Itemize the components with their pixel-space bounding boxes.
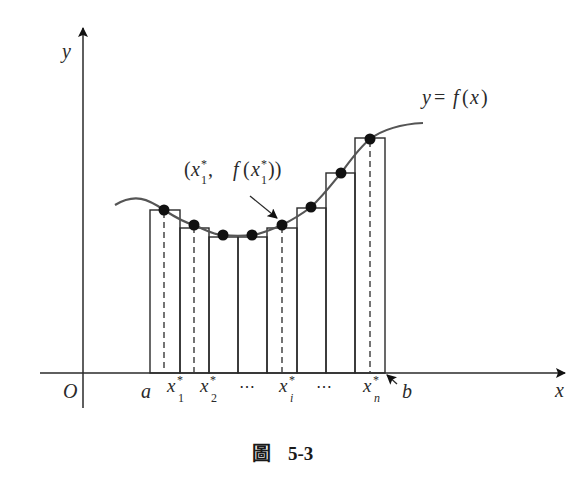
svg-text:x: x	[278, 375, 288, 396]
annotation-arrow	[250, 196, 277, 218]
svg-text:x: x	[469, 86, 479, 108]
sample-point	[247, 230, 258, 241]
svg-text:y: y	[420, 86, 431, 109]
svg-text:*: *	[177, 373, 183, 387]
svg-text:1: 1	[261, 173, 267, 187]
svg-text:2: 2	[211, 391, 217, 405]
rectangle-6	[297, 208, 326, 373]
svg-text:i: i	[290, 391, 293, 405]
svg-text:1: 1	[178, 391, 184, 405]
point-annotation-label: ( x * 1 , f ( x * 1 ))	[184, 157, 281, 187]
sample-points	[159, 134, 376, 241]
sample-point	[218, 230, 229, 241]
svg-text:*: *	[210, 373, 216, 387]
svg-text:x: x	[250, 158, 260, 180]
curve-label: y = f ( x )	[420, 86, 488, 109]
svg-text:,: ,	[208, 158, 213, 180]
sample-point	[365, 134, 376, 145]
svg-text:=: =	[434, 86, 445, 108]
riemann-sum-diagram: y x O y = f ( x ) ( x * 1 , f ( x * 1 ))…	[0, 0, 580, 488]
svg-text:n: n	[374, 391, 380, 405]
svg-text:(: (	[462, 86, 469, 109]
svg-text:*: *	[261, 157, 267, 171]
sample-point	[189, 220, 200, 231]
rectangle-7	[326, 173, 355, 373]
svg-text:): )	[481, 86, 488, 109]
svg-text:x: x	[166, 375, 176, 396]
svg-text:1: 1	[201, 173, 207, 187]
svg-text:圖: 圖	[252, 443, 271, 464]
sample-point	[336, 168, 347, 179]
figure-caption: 圖 5-3	[252, 443, 313, 464]
svg-text:x: x	[362, 375, 372, 396]
svg-text:5-3: 5-3	[288, 443, 313, 464]
tick-b: b	[402, 380, 412, 402]
rectangle-1	[150, 210, 180, 373]
y-axis-label: y	[60, 40, 71, 63]
svg-text:x: x	[199, 375, 209, 396]
x-axis-label: x	[554, 379, 564, 401]
b-pointer-arrow	[387, 375, 397, 384]
svg-text:*: *	[373, 373, 379, 387]
sample-point	[306, 202, 317, 213]
sample-point	[159, 205, 170, 216]
svg-text:*: *	[201, 157, 207, 171]
svg-text:f: f	[453, 86, 461, 109]
x-tick-labels: a x * 1 x * 2 ⋯ x * i ⋯ x * n b	[141, 373, 412, 405]
sample-point	[277, 220, 288, 231]
svg-text:x: x	[190, 158, 200, 180]
svg-text:*: *	[289, 373, 295, 387]
rectangle-4	[238, 237, 267, 373]
rectangle-3	[209, 237, 238, 373]
svg-text:(: (	[243, 158, 250, 181]
svg-text:f: f	[233, 158, 241, 181]
svg-text:⋯: ⋯	[239, 378, 255, 395]
origin-label: O	[63, 380, 77, 402]
svg-text:⋯: ⋯	[316, 378, 332, 395]
svg-text:(: (	[184, 158, 191, 181]
svg-text:)): ))	[268, 158, 281, 181]
tick-a: a	[141, 380, 151, 402]
